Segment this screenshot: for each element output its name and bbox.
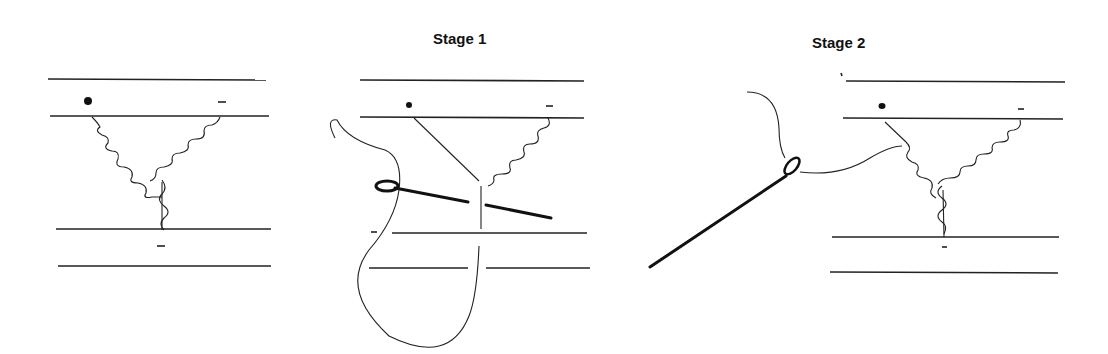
panel-stage-2: [650, 73, 1065, 273]
thread-twisted: [92, 117, 162, 198]
needle-eye: [782, 155, 803, 177]
panel-stage-1: [330, 80, 590, 347]
thread-twisted: [938, 186, 946, 234]
skin-line: [48, 79, 266, 80]
thread: [747, 92, 902, 173]
thread-twisted: [159, 180, 168, 230]
dot-marker: [406, 102, 412, 108]
needle-eye: [376, 181, 398, 191]
panel-initial: [48, 79, 271, 266]
dot-marker: [879, 103, 886, 109]
thread-twisted: [488, 118, 549, 186]
thread-straight: [414, 118, 479, 181]
skin-line: [360, 117, 584, 118]
thread-twisted: [150, 117, 220, 181]
needle: [650, 176, 786, 267]
skin-line: [843, 118, 1063, 119]
dot-marker: [84, 97, 92, 105]
thread-straight: [885, 122, 906, 142]
suture-diagram: [0, 0, 1108, 354]
skin-line: [846, 81, 1065, 82]
thread-twisted: [938, 120, 1020, 184]
thread-twisted: [906, 142, 936, 198]
tick-mark: [841, 73, 842, 76]
skin-line: [360, 80, 584, 81]
skin-line: [830, 272, 1058, 273]
thread-straight: [943, 190, 944, 237]
needle: [395, 188, 551, 218]
